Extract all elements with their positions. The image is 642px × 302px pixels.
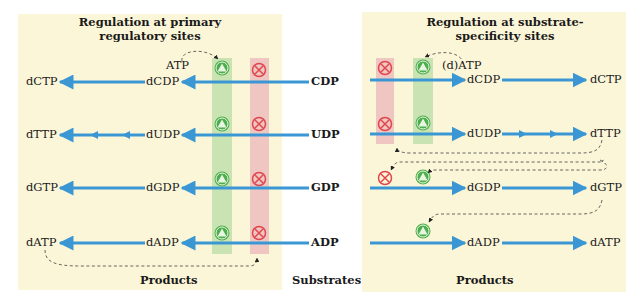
substrate-gdp: GDP [309, 182, 341, 194]
right-intermediate-dadp: dADP [467, 237, 500, 249]
right-product-datp: dATP [590, 237, 620, 249]
left-intermediate-dcdp: dCDP [146, 76, 179, 88]
right-footer-products: Products [456, 275, 514, 287]
right-product-dgtp: dGTP [590, 182, 622, 194]
substrate-cdp: CDP [309, 76, 341, 88]
left-intermediate-dgdp: dGDP [146, 182, 180, 194]
left-product-dgtp: dGTP [26, 182, 58, 194]
left-intermediate-dudp: dUDP [146, 129, 180, 141]
left-effector-atp: ATP [166, 60, 189, 72]
right-effector-datp: (d)ATP [442, 60, 481, 72]
left-intermediate-dadp: dADP [146, 237, 179, 249]
left-arrows [60, 82, 335, 243]
right-product-dctp: dCTP [590, 74, 622, 86]
left-footer-products: Products [140, 275, 198, 287]
left-product-datp: dATP [26, 237, 56, 249]
right-arrows [370, 80, 586, 243]
right-intermediate-dgdp: dGDP [467, 182, 501, 194]
center-footer-substrates: Substrates [292, 275, 361, 287]
right-intermediate-dcdp: dCDP [467, 74, 500, 86]
substrate-udp: UDP [309, 129, 342, 141]
right-intermediate-dudp: dUDP [467, 128, 501, 140]
pathway-diagram [0, 0, 642, 302]
right-product-dttp: dTTP [590, 128, 621, 140]
substrate-adp: ADP [309, 237, 341, 249]
left-product-dctp: dCTP [26, 76, 58, 88]
left-product-dttp: dTTP [26, 129, 57, 141]
